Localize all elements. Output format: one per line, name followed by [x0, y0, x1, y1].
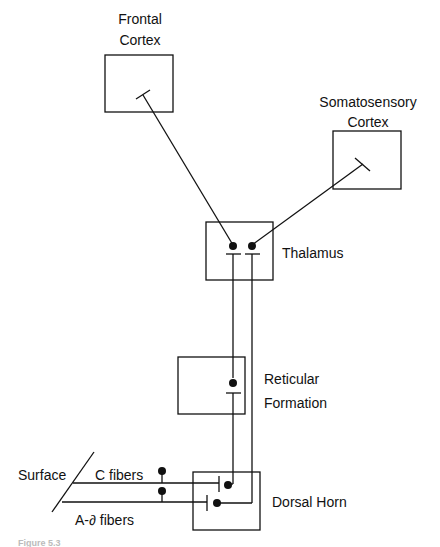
thalamus-label: Thalamus: [282, 245, 343, 261]
somatosensory-cortex-label-line1: Somatosensory: [319, 94, 416, 110]
thalamus-box: [206, 222, 273, 280]
surface-label: Surface: [18, 467, 66, 483]
somatosensory-cortex-box: [333, 131, 401, 189]
dorsal-terminal-dot-2: [213, 499, 221, 507]
reticular-formation-label-line2: Formation: [264, 395, 327, 411]
dorsal-horn-node: Dorsal Horn: [193, 472, 347, 530]
primary-afferents: Surface C fibers A-∂ fibers: [18, 452, 219, 528]
a-delta-fibers-label: A-∂ fibers: [75, 512, 134, 528]
dorsal-horn-label: Dorsal Horn: [272, 494, 347, 510]
somatosensory-cortex-label-line2: Cortex: [347, 114, 388, 130]
somatosensory-cortex-node: Somatosensory Cortex: [319, 94, 416, 189]
frontal-cortex-label-line1: Frontal: [118, 11, 162, 27]
c-fibers-label: C fibers: [95, 467, 143, 483]
thalamus-to-somatosensory-axon: [252, 164, 363, 245]
dorsal-horn-box: [193, 472, 260, 530]
thalamus-terminal-dot-1: [229, 242, 237, 250]
dorsal-terminal-dot-1: [224, 481, 232, 489]
thalamus-terminal-dot-2: [248, 242, 256, 250]
pain-pathway-diagram: Frontal Cortex Somatosensory Cortex Thal…: [0, 0, 440, 547]
reticular-terminal-dot: [229, 379, 237, 387]
frontal-synapse-bar: [136, 90, 150, 99]
reticular-formation-label-line1: Reticular: [264, 371, 320, 387]
frontal-cortex-label-line2: Cortex: [119, 32, 160, 48]
figure-caption: Figure 5.3: [18, 538, 61, 547]
frontal-cortex-box: [105, 55, 173, 112]
frontal-cortex-node: Frontal Cortex: [105, 11, 173, 112]
thalamus-node: Thalamus: [206, 222, 343, 280]
